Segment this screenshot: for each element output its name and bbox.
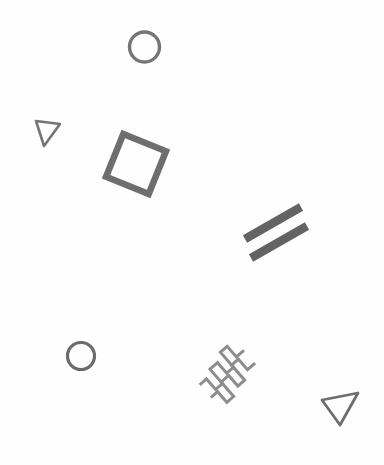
abstract-shapes-illustration [0, 0, 384, 465]
shape-canvas-container: Abstract gray geometric shapes on white … [0, 0, 384, 465]
canvas-background [0, 0, 384, 465]
